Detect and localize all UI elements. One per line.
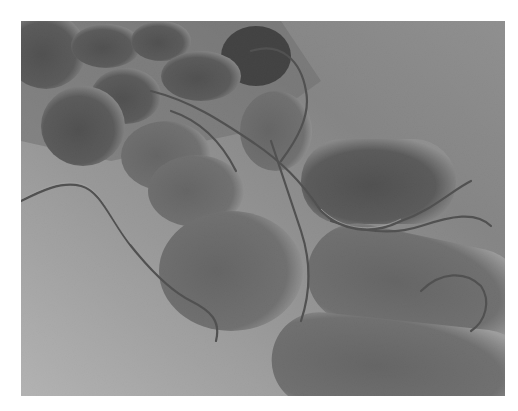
micrograph-image <box>21 21 505 396</box>
micrograph-svg <box>21 21 505 396</box>
texture-overlay <box>21 21 505 396</box>
